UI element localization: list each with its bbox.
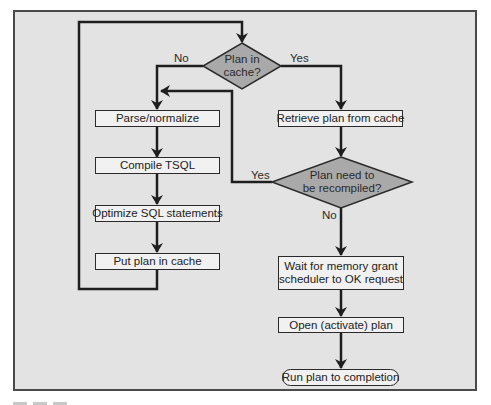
decision-recompile-line1: Plan need to: [303, 169, 382, 182]
process-compile-tsql: Compile TSQL: [95, 157, 220, 174]
edge-label-cache-yes: Yes: [290, 52, 309, 64]
terminator-run-plan: Run plan to completion: [282, 369, 399, 386]
decision-plan-in-cache-line1: Plan in: [223, 53, 260, 66]
decision-plan-in-cache: Plan in cache?: [223, 53, 260, 79]
edge-label-recompile-yes: Yes: [251, 169, 270, 181]
process-retrieve-plan: Retrieve plan from cache: [278, 110, 403, 127]
process-parse-normalize: Parse/normalize: [95, 110, 220, 127]
edge-no-to-parse: [157, 66, 203, 109]
decision-recompile-line2: be recompiled?: [303, 182, 382, 195]
process-wait-line1: Wait for memory grant: [284, 260, 397, 273]
process-wait-line2: scheduler to OK request: [279, 273, 403, 286]
figure-caption-truncated: [13, 399, 133, 405]
decision-recompile: Plan need to be recompiled?: [303, 169, 382, 195]
process-open-plan: Open (activate) plan: [278, 317, 404, 333]
process-put-plan-in-cache: Put plan in cache: [95, 253, 220, 270]
edge-yes-to-retrieve: [281, 66, 341, 109]
process-optimize-sql: Optimize SQL statements: [95, 205, 220, 222]
edge-label-cache-no: No: [174, 52, 189, 64]
process-wait-memory-grant: Wait for memory grant scheduler to OK re…: [278, 256, 404, 290]
decision-plan-in-cache-line2: cache?: [223, 66, 260, 79]
edge-label-recompile-no: No: [322, 209, 337, 221]
